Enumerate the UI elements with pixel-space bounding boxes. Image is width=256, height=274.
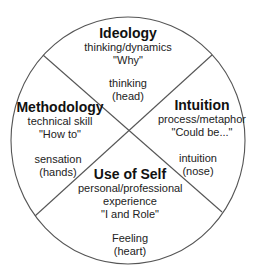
methodology-line-2: "How to"	[14, 128, 106, 141]
ideology-line-2: "Why"	[78, 54, 178, 67]
use-of-self-line-3: "I and Role"	[78, 208, 182, 221]
quadrant-methodology: Methodology technical skill "How to"	[14, 99, 106, 141]
use-of-self-faculty-1: Feeling	[100, 232, 160, 245]
methodology-title: Methodology	[14, 99, 106, 115]
ideology-faculty: thinking (head)	[98, 77, 158, 103]
intuition-line-2: "Could be..."	[154, 126, 250, 139]
quadrant-intuition: Intuition process/metaphor "Could be..."	[154, 97, 250, 139]
use-of-self-title: Use of Self	[78, 166, 182, 182]
quadrant-use-of-self: Use of Self personal/professional experi…	[78, 166, 182, 221]
intuition-faculty-1: intuition	[168, 152, 228, 165]
use-of-self-line-2: experience	[78, 195, 182, 208]
methodology-line-1: technical skill	[14, 115, 106, 128]
intuition-title: Intuition	[154, 97, 250, 113]
ideology-line-1: thinking/dynamics	[78, 41, 178, 54]
intuition-line-1: process/metaphor	[154, 113, 250, 126]
methodology-faculty-1: sensation	[28, 153, 88, 166]
use-of-self-faculty-2: (heart)	[100, 245, 160, 258]
use-of-self-line-1: personal/professional	[78, 182, 182, 195]
use-of-self-faculty: Feeling (heart)	[100, 232, 160, 258]
ideology-faculty-1: thinking	[98, 77, 158, 90]
ideology-faculty-2: (head)	[98, 90, 158, 103]
quadrant-ideology: Ideology thinking/dynamics "Why"	[78, 25, 178, 67]
ideology-title: Ideology	[78, 25, 178, 41]
